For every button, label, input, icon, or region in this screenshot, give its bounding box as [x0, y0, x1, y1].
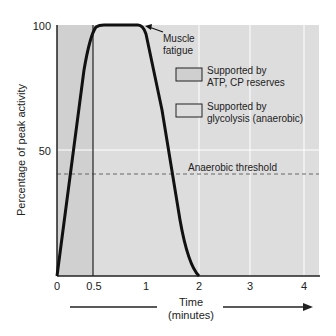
legend2-line1: Supported by	[207, 101, 267, 112]
y-axis-label: Percentage of peak activity	[15, 83, 27, 216]
y-tick-50: 50	[39, 145, 51, 157]
legend1-line2: ATP, CP reserves	[207, 77, 285, 88]
legend2-line2: glycolysis (anaerobic)	[207, 113, 303, 124]
x-axis-label-line1: Time	[179, 296, 203, 308]
chart: Anaerobic threshold Muscle fatigue Suppo…	[0, 0, 336, 336]
x-tick-0.5: 0.5	[86, 280, 101, 292]
legend-swatch-glycolysis	[176, 104, 202, 117]
x-tick-0: 0	[54, 280, 60, 292]
x-tick-1: 1	[143, 280, 149, 292]
legend1-line1: Supported by	[207, 65, 267, 76]
x-tick-2: 2	[196, 280, 202, 292]
y-tick-100: 100	[33, 20, 51, 32]
x-tick-3: 3	[247, 280, 253, 292]
annotation-line1: Muscle	[163, 33, 195, 44]
x-tick-4: 4	[301, 280, 307, 292]
annotation-line2: fatigue	[163, 45, 193, 56]
x-axis-label-line2: (minutes)	[168, 309, 214, 321]
legend-swatch-atp	[176, 68, 202, 81]
time-arrowhead-icon	[303, 303, 313, 311]
threshold-label: Anaerobic threshold	[188, 162, 277, 173]
